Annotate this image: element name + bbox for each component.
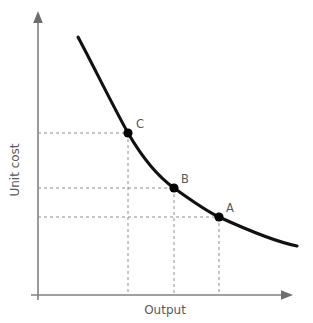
y-axis-arrow-icon — [33, 11, 43, 23]
chart-canvas: C B A Output Unit cost — [0, 0, 313, 323]
data-point-b[interactable] — [169, 183, 178, 192]
y-axis-title: Unit cost — [8, 143, 22, 196]
x-axis-arrow-icon — [281, 290, 293, 300]
guide-lines-group — [38, 133, 219, 295]
point-label-b: B — [181, 172, 189, 186]
axes-group — [31, 11, 293, 300]
data-point-c[interactable] — [123, 128, 132, 137]
axis-titles-group: Output Unit cost — [8, 143, 186, 317]
data-point-a[interactable] — [214, 212, 223, 221]
point-label-c: C — [136, 117, 144, 131]
unit-cost-output-chart: C B A Output Unit cost — [0, 0, 313, 323]
unit-cost-curve — [78, 37, 297, 246]
x-axis-title: Output — [144, 303, 186, 317]
point-label-a: A — [226, 201, 234, 215]
